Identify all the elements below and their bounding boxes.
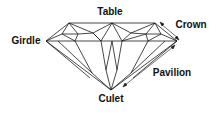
label-culet: Culet — [99, 94, 124, 104]
label-pavilion: Pavilion — [153, 68, 191, 78]
diamond-outline — [46, 23, 177, 90]
pavilion-arrow — [123, 45, 175, 87]
label-table: Table — [97, 7, 122, 17]
label-crown: Crown — [175, 20, 206, 30]
label-girdle: Girdle — [12, 36, 41, 46]
